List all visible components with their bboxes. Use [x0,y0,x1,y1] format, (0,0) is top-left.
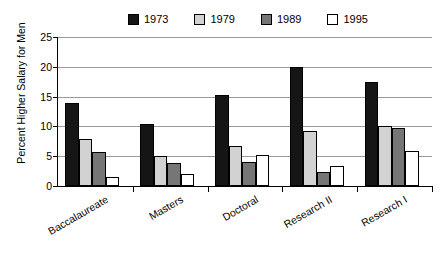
y-axis-ticks: 0510152025 [22,0,52,255]
y-tick-label-20: 20 [30,62,52,72]
y-tick-label-10: 10 [30,121,52,131]
bar-masters-1995 [181,174,195,186]
bar-doctoral-1989 [242,162,256,186]
legend-label-1973: 1973 [144,14,168,25]
legend-item-1995: 1995 [327,14,367,25]
x-tick-mark-3 [282,187,283,192]
bar-baccalaureate-1995 [106,177,120,186]
legend-label-1979: 1979 [210,14,234,25]
legend-label-1995: 1995 [343,14,367,25]
y-tick-label-25: 25 [30,32,52,42]
legend-item-1973: 1973 [128,14,168,25]
legend-swatch-1979 [194,14,205,25]
y-tick-label-15: 15 [30,92,52,102]
plot-area [58,37,432,186]
y-tick-label-5: 5 [30,151,52,161]
bar-baccalaureate-1989 [92,152,106,186]
bar-research-ii-1989 [317,172,331,186]
bar-doctoral-1973 [215,95,229,186]
bar-research-i-1979 [378,126,392,186]
bar-group-research-ii [290,37,344,186]
bar-baccalaureate-1973 [65,103,79,186]
x-axis-line [57,186,433,187]
bar-doctoral-1979 [229,146,243,186]
bar-research-ii-1995 [330,166,344,186]
legend-swatch-1989 [261,14,272,25]
bar-group-baccalaureate [65,37,119,186]
bar-baccalaureate-1979 [79,139,93,186]
bar-research-i-1973 [365,82,379,186]
legend-swatch-1973 [128,14,139,25]
legend-swatch-1995 [327,14,338,25]
legend-item-1979: 1979 [194,14,234,25]
x-tick-mark-1 [133,187,134,192]
bar-chart: 1973197919891995 Percent Higher Salary f… [0,0,447,255]
bar-group-doctoral [215,37,269,186]
x-tick-mark-5 [432,187,433,192]
legend-label-1989: 1989 [277,14,301,25]
bar-group-masters [140,37,194,186]
bar-research-ii-1979 [303,131,317,186]
bar-masters-1979 [154,156,168,186]
bar-research-ii-1973 [290,67,304,186]
x-tick-mark-2 [208,187,209,192]
bar-masters-1973 [140,124,154,186]
x-tick-mark-4 [357,187,358,192]
chart-legend: 1973197919891995 [128,11,368,27]
bar-doctoral-1995 [256,155,270,186]
bar-group-research-i [365,37,419,186]
bar-masters-1989 [167,163,181,186]
bar-research-i-1989 [392,128,406,186]
y-tick-label-0: 0 [30,181,52,191]
legend-item-1989: 1989 [261,14,301,25]
bar-research-i-1995 [405,151,419,186]
